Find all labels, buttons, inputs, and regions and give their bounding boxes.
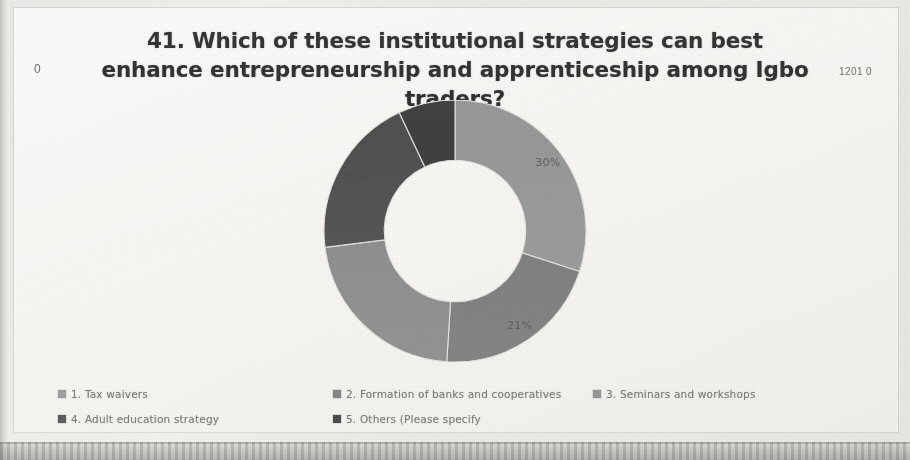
legend-swatch-icon [58,390,66,398]
legend-item-3[interactable]: 3. Seminars and workshops [593,388,756,400]
donut-slice-value-label: 30% [535,156,560,169]
legend-swatch-icon [333,415,341,423]
page-marker-left: 0 [34,62,41,76]
donut-slices [324,100,586,362]
page-marker-right: 1201 0 [839,66,872,77]
legend-item-label: 1. Tax waivers [71,388,148,400]
donut-chart-svg: 30%21%20% [310,100,600,362]
legend-item-label: 2. Formation of banks and cooperatives [346,388,561,400]
legend-item-label: 4. Adult education strategy [71,413,219,425]
legend-row: 1. Tax waivers 2. Formation of banks and… [58,388,848,413]
legend-item-1[interactable]: 1. Tax waivers [58,388,148,400]
legend-item-5[interactable]: 5. Others (Please specify [333,413,481,425]
legend-item-4[interactable]: 4. Adult education strategy [58,413,219,425]
donut-slice[interactable] [455,100,586,271]
donut-chart: 30%21%20% [310,100,600,362]
scan-edge-left [0,0,9,460]
legend-item-label: 5. Others (Please specify [346,413,481,425]
donut-slice-value-label: 21% [507,319,532,332]
chart-legend: 1. Tax waivers 2. Formation of banks and… [58,388,848,438]
legend-swatch-icon [58,415,66,423]
donut-slice[interactable] [447,253,580,362]
slide-canvas: 0 1201 0 41. Which of these institutiona… [0,0,910,460]
donut-slice[interactable] [325,240,451,362]
legend-item-2[interactable]: 2. Formation of banks and cooperatives [333,388,561,400]
donut-slice-value-label: 20% [342,169,367,182]
scan-edge-bottom [0,442,910,460]
legend-swatch-icon [333,390,341,398]
legend-item-label: 3. Seminars and workshops [606,388,756,400]
legend-row: 4. Adult education strategy 5. Others (P… [58,413,848,438]
legend-swatch-icon [593,390,601,398]
